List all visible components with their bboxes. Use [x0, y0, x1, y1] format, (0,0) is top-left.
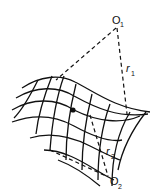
label-r2: r 2	[106, 145, 115, 160]
grid-column	[36, 76, 52, 134]
label-o1: O 1	[112, 14, 124, 28]
dashed-line-o1-to-surface	[56, 28, 116, 80]
label-o1-sub: 1	[120, 21, 124, 28]
label-o2: O 2	[110, 175, 122, 190]
grid-column	[98, 104, 110, 180]
dashed-line-surface-to-o2	[50, 150, 106, 176]
label-r2-sub: 2	[111, 153, 115, 160]
grid-row	[58, 160, 100, 186]
surface-grid-columns	[14, 76, 146, 186]
label-o2-sub: 2	[118, 183, 122, 190]
label-r1-sub: 1	[131, 70, 135, 77]
grid-column	[66, 84, 76, 160]
grid-column	[50, 76, 64, 150]
saddle-surface-diagram: O 1 r 1 r 2 O 2	[0, 0, 155, 196]
surface-grid-rows	[12, 77, 150, 186]
surface-point-dot	[70, 107, 75, 112]
label-r1: r 1	[126, 62, 135, 77]
